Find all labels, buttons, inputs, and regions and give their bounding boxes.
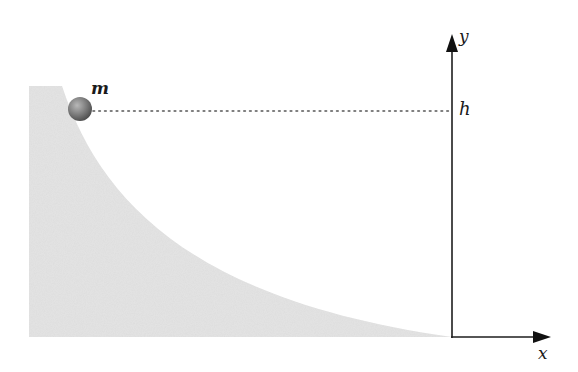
diagram-canvas — [0, 0, 578, 372]
mass-label: m — [91, 80, 109, 97]
y-axis-label: y — [459, 28, 469, 45]
mass-ball — [68, 97, 92, 121]
y-axis-arrowhead — [446, 34, 458, 52]
x-axis-arrowhead — [533, 331, 551, 343]
ramp-surface — [29, 86, 452, 337]
x-axis-label: x — [538, 345, 548, 362]
height-label: h — [459, 100, 471, 118]
